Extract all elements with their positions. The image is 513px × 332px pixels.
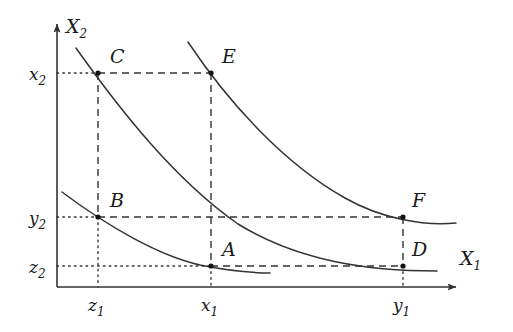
x-axis-label: X1 (458, 247, 481, 273)
x-axis-label-base: X (458, 247, 475, 269)
point-label-c: C (110, 45, 125, 67)
point-label-a: A (220, 238, 236, 260)
y-tick-x2-sub: 2 (38, 74, 47, 88)
indifference-curve-figure: X2 X1 x2 y2 z2 z1 x1 (0, 0, 513, 332)
y-tick-label-z2: z2 (28, 257, 46, 281)
lowest-indifference-curve (62, 192, 270, 273)
marked-points (95, 70, 405, 268)
point-marker-e (208, 70, 213, 75)
y-tick-label-x2: x2 (29, 64, 46, 88)
y-axis-label-sub: 2 (79, 27, 88, 41)
point-label-f: F (411, 189, 426, 211)
x-tick-z1-sub: 1 (97, 305, 105, 319)
y-axis-label: X2 (64, 15, 87, 41)
point-label-b: B (109, 189, 124, 211)
x-tick-x1-sub: 1 (211, 305, 219, 319)
diagram-canvas: X2 X1 x2 y2 z2 z1 x1 (0, 0, 513, 332)
y-axis-label-base: X (64, 15, 81, 37)
x-tick-labels: z1 x1 y1 (87, 295, 410, 319)
y-tick-z2-sub: 2 (37, 267, 46, 281)
x-tick-y1-base: y (392, 295, 403, 315)
x-axis-label-sub: 1 (474, 259, 482, 273)
point-marker-a (208, 263, 213, 268)
y-tick-x2-base: x (29, 64, 39, 84)
x-tick-y1-sub: 1 (403, 305, 411, 319)
point-label-e: E (221, 45, 236, 67)
point-marker-b (95, 214, 100, 219)
point-labels: C E B F A D (109, 45, 427, 260)
indifference-curves (62, 42, 456, 273)
x-tick-x1-base: x (201, 295, 211, 315)
y-tick-labels: x2 y2 z2 (28, 64, 46, 281)
x-tick-label-y1: y1 (392, 295, 410, 319)
point-label-d: D (411, 238, 427, 260)
y-tick-label-y2: y2 (28, 208, 46, 232)
x-tick-label-x1: x1 (201, 295, 218, 319)
point-marker-f (400, 214, 405, 219)
point-marker-d (400, 263, 405, 268)
y-tick-y2-sub: 2 (38, 218, 47, 232)
middle-indifference-curve (76, 48, 437, 271)
point-marker-c (95, 70, 100, 75)
y-tick-y2-base: y (28, 208, 39, 228)
dashed-connector-lines (98, 73, 403, 266)
x-tick-label-z1: z1 (87, 295, 105, 319)
